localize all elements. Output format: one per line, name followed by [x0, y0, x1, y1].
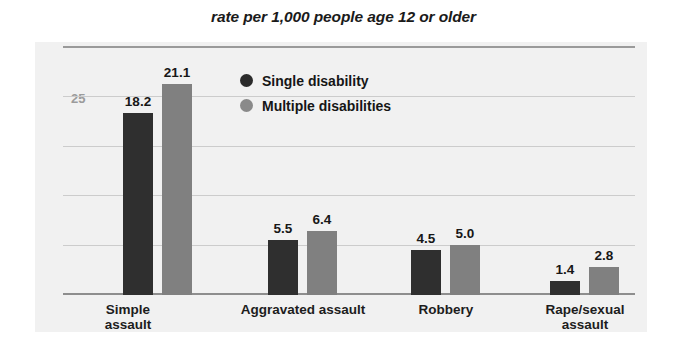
bar-rect	[307, 231, 337, 295]
bar-value-label: 2.8	[577, 248, 631, 263]
bar-rect	[589, 267, 619, 295]
bar-value-label: 1.4	[538, 262, 592, 277]
legend-marker-circle-icon	[240, 74, 253, 87]
bar-value-label: 5.0	[438, 226, 492, 241]
category-label-aggravated-assault: Aggravated assault	[213, 302, 393, 317]
legend-item-single-disability[interactable]: Single disability	[240, 68, 391, 93]
bar-value-label: 18.2	[111, 94, 165, 109]
legend-marker-circle-icon	[240, 99, 253, 112]
bar-value-label: 6.4	[295, 212, 349, 227]
category-label-rape-sexual-assault: Rape/sexual assault	[515, 302, 655, 332]
chart-legend: Single disability Multiple disabilities	[240, 68, 391, 118]
bar-value-label: 21.1	[150, 65, 204, 80]
gridline-25	[63, 46, 635, 48]
bar-rect	[268, 240, 298, 295]
category-label-simple-assault: Simple assault	[88, 302, 168, 332]
legend-label: Multiple disabilities	[262, 98, 391, 114]
bar-rect	[162, 84, 192, 295]
bar-rect	[411, 250, 441, 295]
category-label-robbery: Robbery	[381, 302, 511, 317]
bar-rect	[450, 245, 480, 295]
legend-item-multiple-disabilities[interactable]: Multiple disabilities	[240, 93, 391, 118]
chart-title: rate per 1,000 people age 12 or older	[0, 8, 687, 26]
chart-panel: 25 18.2 21.1 Simple assault 5.5	[35, 42, 647, 332]
legend-label: Single disability	[262, 73, 369, 89]
bar-rect	[550, 281, 580, 295]
bar-rect	[123, 113, 153, 295]
